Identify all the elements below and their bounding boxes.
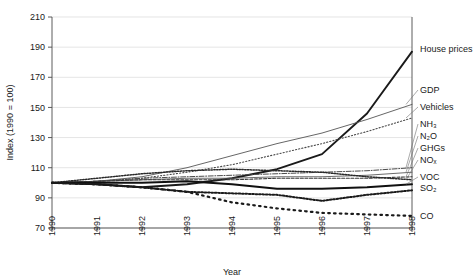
xtick-label-1995: 1995 [272,216,282,236]
chart-container: 7090110130150170190210199019911992199319… [0,0,476,280]
ytick-label-190: 190 [30,42,45,52]
series-line-Vehicles [52,118,412,183]
xtick-label-1997: 1997 [362,216,372,236]
y-axis-title: Index (1990 = 100) [5,85,15,161]
ytick-label-130: 130 [30,133,45,143]
xtick-label-1990: 1990 [47,216,57,236]
xtick-label-1996: 1996 [317,216,327,236]
series-label-NH3: NH₃ [420,119,437,129]
ytick-label-150: 150 [30,103,45,113]
xtick-label-1992: 1992 [137,216,147,236]
xtick-label-1991: 1991 [92,216,102,236]
series-label-NOx: NOₓ [420,155,437,165]
ytick-label-110: 110 [31,163,45,173]
series-label-CO: CO [420,211,434,221]
ytick-label-70: 70 [35,223,45,233]
xtick-label-1993: 1993 [182,216,192,236]
ytick-label-90: 90 [35,193,45,203]
xtick-label-1994: 1994 [227,216,237,236]
ytick-label-170: 170 [30,72,45,82]
series-label-House prices: House prices [420,44,473,54]
series-line-House prices [52,52,412,188]
series-label-VOC: VOC [420,172,440,182]
series-label-GHGs: GHGs [420,143,446,153]
series-label-GDP: GDP [420,85,440,95]
series-label-N2O: N₂O [420,131,437,141]
series-label-Vehicles: Vehicles [420,102,454,112]
ytick-label-210: 210 [30,12,45,22]
series-label-SO2: SO₂ [420,183,437,193]
xtick-label-1998: 1998 [407,216,417,236]
x-axis-title: Year [223,267,241,277]
line-chart: 7090110130150170190210199019911992199319… [0,0,476,280]
